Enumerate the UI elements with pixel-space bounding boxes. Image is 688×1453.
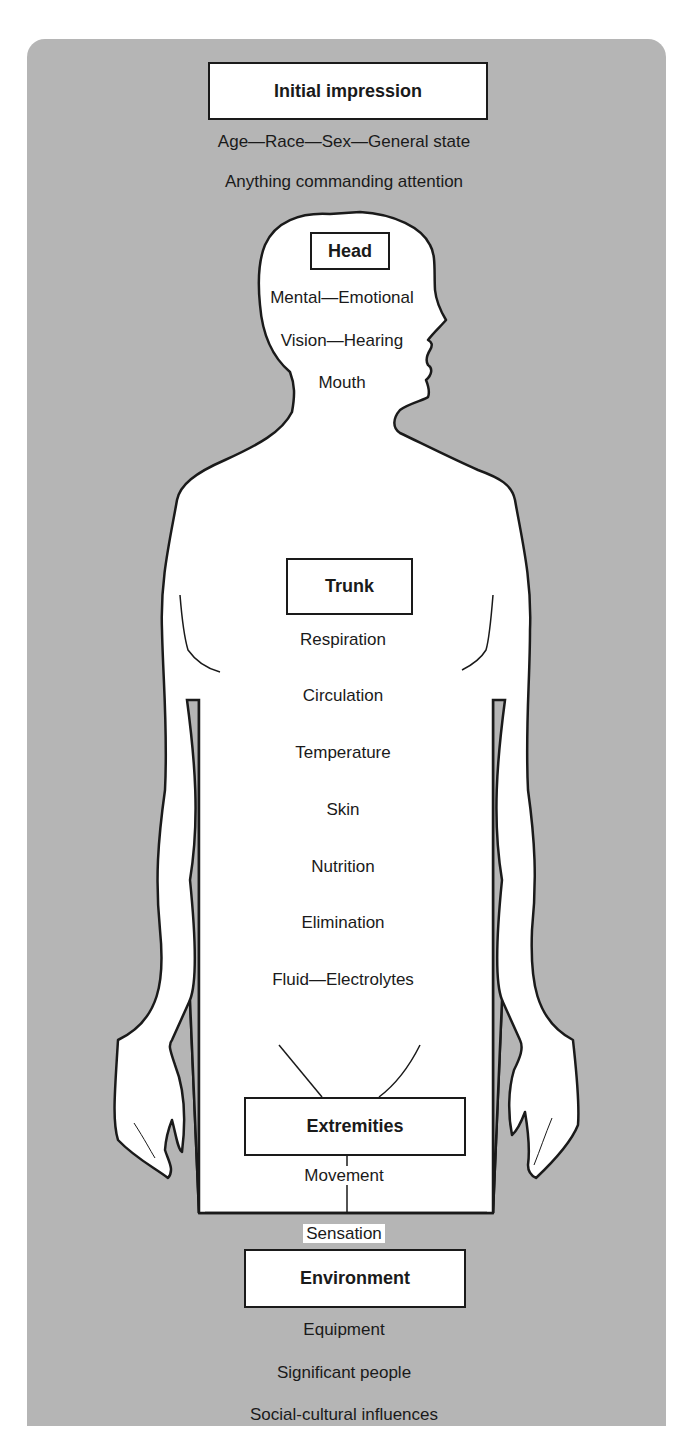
extremities-item: Movement	[0, 1166, 688, 1186]
head-item: Mouth	[0, 373, 686, 393]
body-outline	[115, 212, 579, 1213]
trunk-item: Nutrition	[0, 857, 687, 877]
head-item: Mental—Emotional	[0, 288, 686, 308]
head-box: Head	[310, 232, 390, 270]
trunk-title: Trunk	[325, 576, 374, 597]
extremities-title: Extremities	[306, 1116, 403, 1137]
head-item: Vision—Hearing	[0, 331, 686, 351]
environment-item: Significant people	[0, 1363, 688, 1383]
initial-impression-box: Initial impression	[208, 62, 488, 120]
head-title: Head	[328, 241, 372, 262]
environment-box: Environment	[244, 1249, 466, 1308]
initial-impression-item: Age—Race—Sex—General state	[0, 132, 688, 152]
trunk-item: Temperature	[0, 743, 687, 763]
environment-title: Environment	[300, 1268, 410, 1289]
trunk-item: Circulation	[0, 686, 687, 706]
extremities-box: Extremities	[244, 1097, 466, 1156]
trunk-box: Trunk	[286, 558, 413, 615]
extremities-item-text: Sensation	[303, 1224, 385, 1243]
trunk-item: Elimination	[0, 913, 687, 933]
trunk-item: Fluid—Electrolytes	[0, 970, 687, 990]
initial-impression-item: Anything commanding attention	[0, 172, 688, 192]
extremities-item: Sensation	[0, 1224, 688, 1244]
environment-item: Social-cultural influences	[0, 1405, 688, 1425]
environment-item: Equipment	[0, 1320, 688, 1340]
initial-impression-title: Initial impression	[274, 81, 422, 102]
extremities-item-text: Movement	[301, 1166, 386, 1185]
trunk-item: Skin	[0, 800, 687, 820]
trunk-item: Respiration	[0, 630, 687, 650]
